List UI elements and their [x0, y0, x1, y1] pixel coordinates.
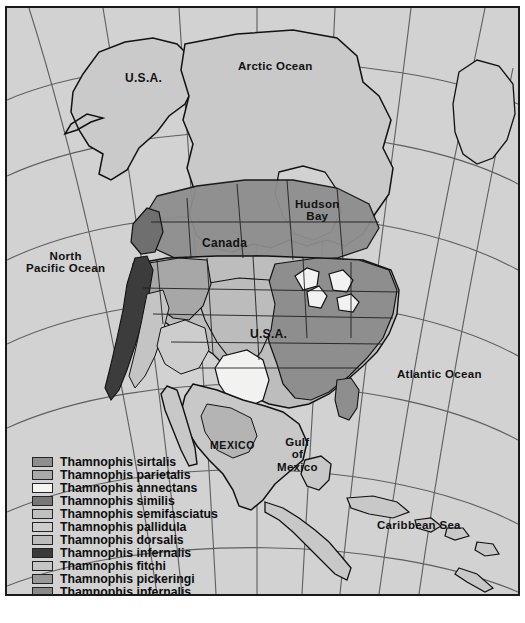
- legend-item: Thamnophis annectans: [32, 481, 218, 494]
- legend-swatch: [32, 548, 53, 558]
- legend-item: Thamnophis dorsalis: [32, 534, 218, 547]
- label-atlantic-ocean: Atlantic Ocean: [397, 368, 482, 380]
- label-caribbean-sea: Caribbean Sea: [377, 519, 461, 531]
- legend-swatch: [32, 470, 53, 480]
- range-canada-sirtalis: [141, 180, 379, 260]
- legend-label: Thamnophis infernalis: [60, 546, 191, 560]
- legend-swatch: [32, 561, 53, 571]
- label-mexico: MEXICO: [210, 440, 255, 451]
- map-legend: Thamnophis sirtalis Thamnophis parietali…: [32, 455, 218, 596]
- legend-swatch: [32, 483, 53, 493]
- legend-label: Thamnophis parietalis: [60, 468, 191, 482]
- legend-swatch: [32, 457, 53, 467]
- legend-item: Thamnophis infernalis: [32, 586, 218, 596]
- legend-item: Thamnophis parietalis: [32, 468, 218, 481]
- legend-label: Thamnophis dorsalis: [60, 533, 184, 547]
- legend-item: Thamnophis semifasciatus: [32, 507, 218, 520]
- legend-label: Thamnophis semifasciatus: [60, 507, 218, 521]
- legend-label: Thamnophis infernalis: [60, 585, 191, 596]
- label-north-pacific-ocean: North Pacific Ocean: [26, 250, 105, 275]
- legend-swatch: [32, 496, 53, 506]
- legend-item: Thamnophis infernalis: [32, 547, 218, 560]
- label-usa-mainland: U.S.A.: [250, 328, 287, 341]
- label-usa-alaska: U.S.A.: [125, 72, 162, 85]
- legend-label: Thamnophis pallidula: [60, 520, 186, 534]
- legend-item: Thamnophis pallidula: [32, 520, 218, 533]
- legend-swatch: [32, 574, 53, 584]
- legend-swatch: [32, 522, 53, 532]
- legend-swatch: [32, 509, 53, 519]
- legend-label: Thamnophis annectans: [60, 481, 197, 495]
- map-page: Arctic Ocean U.S.A. Hudson Bay North Pac…: [0, 0, 525, 623]
- legend-item: Thamnophis pickeringi: [32, 573, 218, 586]
- legend-label: Thamnophis similis: [60, 494, 175, 508]
- label-arctic-ocean: Arctic Ocean: [238, 60, 313, 72]
- legend-item: Thamnophis sirtalis: [32, 455, 218, 468]
- map-frame: Arctic Ocean U.S.A. Hudson Bay North Pac…: [5, 6, 520, 596]
- label-canada: Canada: [202, 237, 247, 250]
- legend-label: Thamnophis fitchi: [60, 559, 166, 573]
- label-hudson-bay: Hudson Bay: [295, 198, 340, 223]
- legend-swatch: [32, 587, 53, 596]
- legend-swatch: [32, 535, 53, 545]
- legend-label: Thamnophis sirtalis: [60, 455, 176, 469]
- label-gulf-of-mexico: Gulf of Mexico: [277, 436, 318, 473]
- legend-item: Thamnophis fitchi: [32, 560, 218, 573]
- legend-item: Thamnophis similis: [32, 494, 218, 507]
- legend-label: Thamnophis pickeringi: [60, 572, 195, 586]
